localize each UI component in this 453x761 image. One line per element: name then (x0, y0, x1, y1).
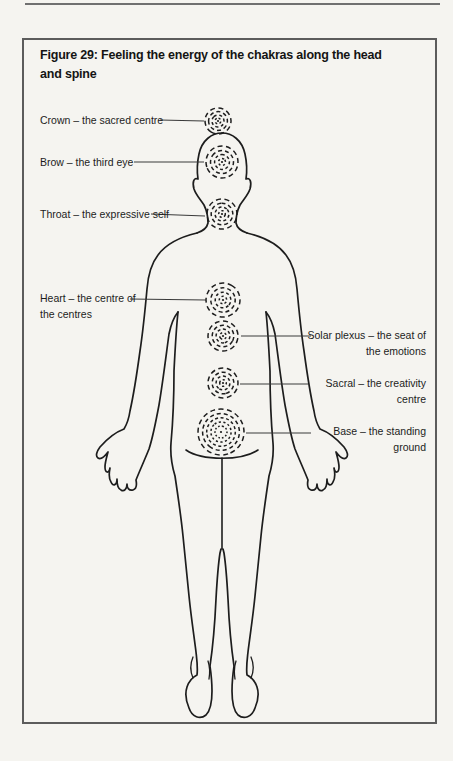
heel-detail (191, 657, 210, 679)
solar-plexus-label-line2: the emotions (308, 343, 427, 359)
leader-crown (160, 120, 204, 121)
label-base-chakra: Base – the standing ground (333, 423, 426, 455)
leader-lines (130, 120, 311, 433)
leader-heart (130, 299, 206, 300)
base-label-line2: ground (333, 439, 426, 455)
crown-label-text: Crown – the sacred centre (40, 114, 163, 126)
chakra-sacral-spiral (203, 363, 242, 402)
label-solar-plexus-chakra: Solar plexus – the seat of the emotions (308, 327, 427, 359)
label-crown-chakra: Crown – the sacred centre (40, 112, 163, 128)
sacral-label-line1: Sacral – the creativity (326, 375, 426, 391)
chakra-heart-spiral (200, 277, 246, 323)
chakra-center-dot (221, 213, 223, 215)
base-label-line1: Base – the standing (333, 423, 426, 439)
sacral-label-line2: centre (326, 391, 426, 407)
label-brow-chakra: Brow – the third eye (40, 154, 133, 170)
chakra-solar-plexus-spiral (203, 316, 243, 356)
label-throat-chakra: Throat – the expressive self (40, 206, 169, 222)
chakra-center-dot (222, 335, 224, 337)
heart-label-line2: the centres (40, 306, 136, 322)
brow-label-text: Brow – the third eye (40, 156, 133, 168)
torso-leg-foot-outline (171, 312, 221, 717)
buttock-curve (186, 450, 258, 458)
chakra-center-dot (220, 431, 222, 433)
label-heart-chakra: Heart – the centre of the centres (40, 290, 136, 322)
chakra-base-spiral (192, 403, 250, 461)
arm-and-hand-outline (97, 233, 197, 491)
chakra-center-dot (217, 120, 219, 122)
chakra-center-dot (222, 382, 224, 384)
mirrored-right-half (222, 133, 347, 717)
chakra-brow-spiral (202, 142, 242, 182)
label-sacral-chakra: Sacral – the creativity centre (326, 375, 426, 407)
chakra-center-dot (221, 161, 223, 163)
throat-label-text: Throat – the expressive self (40, 208, 169, 220)
book-page: Figure 29: Feeling the energy of the cha… (0, 0, 453, 761)
solar-plexus-label-line1: Solar plexus – the seat of (308, 327, 427, 343)
heart-label-line1: Heart – the centre of (40, 290, 136, 306)
chakra-center-dot (222, 299, 224, 301)
